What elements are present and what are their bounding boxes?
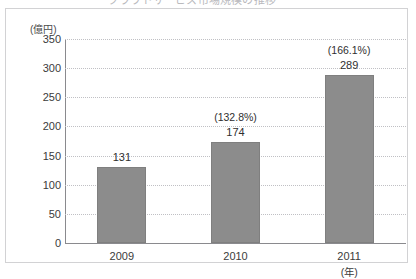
- bar-percent-label-2010: (132.8%): [214, 111, 257, 123]
- bar-2009: [97, 167, 146, 243]
- bar-value-label-2009: 131: [113, 151, 131, 163]
- y-axis-tick-label: 50: [15, 208, 61, 220]
- x-axis-tick-label-2011: 2011: [337, 250, 361, 262]
- bar-2011: [325, 75, 374, 243]
- gridline: [65, 39, 406, 40]
- bar-percent-label-2011: (166.1%): [328, 44, 371, 56]
- y-axis-tick-label: 350: [15, 33, 61, 45]
- chart-frame: (億円) 050100150200250300350 1312009174(13…: [5, 8, 408, 263]
- y-axis-tick-label: 300: [15, 62, 61, 74]
- gridline: [65, 243, 406, 244]
- y-axis-tick-label: 150: [15, 150, 61, 162]
- x-axis-tick-label-2010: 2010: [223, 250, 247, 262]
- clipped-chart-title: クラウドサービス市場規模の推移: [0, 0, 416, 7]
- bar-value-label-2010: 174: [226, 126, 244, 138]
- bar-2010: [211, 142, 260, 243]
- clipped-chart-title-text: クラウドサービス市場規模の推移: [108, 0, 276, 7]
- y-axis-tick-labels: 050100150200250300350: [11, 39, 61, 243]
- y-axis-tick-label: 200: [15, 120, 61, 132]
- x-axis-unit-label: (年): [341, 264, 358, 279]
- y-axis-tick-label: 100: [15, 179, 61, 191]
- y-axis-tick-label: 0: [15, 237, 61, 249]
- plot-area: 1312009174(132.8%)2010289(166.1%)2011(年): [65, 39, 406, 243]
- bar-value-label-2011: 289: [340, 59, 358, 71]
- y-axis-tick-label: 250: [15, 91, 61, 103]
- x-axis-tick-label-2009: 2009: [110, 250, 134, 262]
